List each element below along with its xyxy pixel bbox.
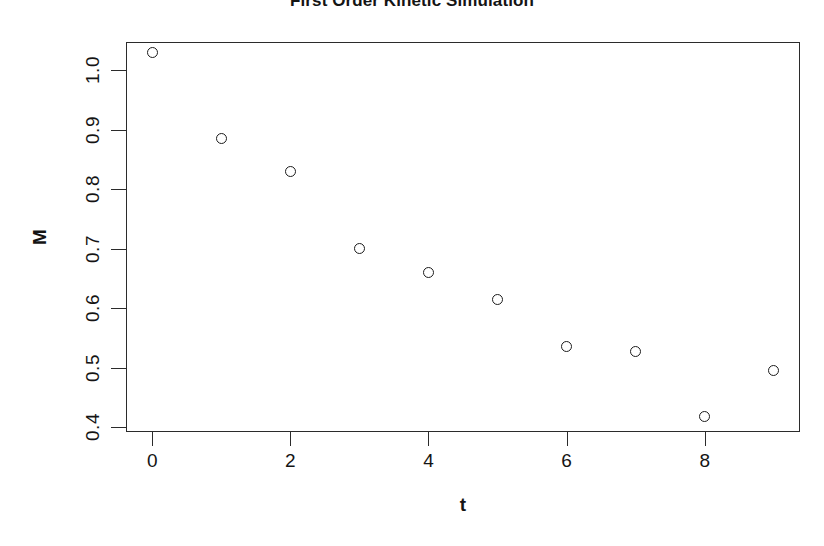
y-axis-tick-label: 0.5 [82, 354, 104, 382]
x-axis-tick [428, 432, 429, 446]
y-axis-tick [111, 368, 126, 369]
x-axis-tick-label: 2 [285, 450, 296, 472]
x-axis-tick-label: 0 [147, 450, 158, 472]
y-axis-tick [111, 427, 126, 428]
x-axis-tick-label: 4 [423, 450, 434, 472]
x-axis-tick-label: 8 [699, 450, 710, 472]
y-axis-label: M [29, 229, 51, 245]
y-axis-tick [111, 70, 126, 71]
plot-area [126, 42, 800, 432]
chart-title: First Order Kinetic Simulation [0, 0, 824, 11]
y-axis-tick [111, 189, 126, 190]
x-axis-tick [567, 432, 568, 446]
y-axis-tick-label: 0.7 [82, 235, 104, 263]
y-axis-tick-label: 0.6 [82, 294, 104, 322]
y-axis-tick [111, 130, 126, 131]
chart-figure: First Order Kinetic Simulation 0.40.50.6… [0, 0, 824, 546]
x-axis-label: t [460, 494, 466, 516]
x-axis-tick-label: 6 [561, 450, 572, 472]
y-axis-tick-label: 0.9 [82, 116, 104, 144]
y-axis-tick-label: 0.8 [82, 175, 104, 203]
x-axis-tick [152, 432, 153, 446]
x-axis-tick [290, 432, 291, 446]
y-axis-tick-label: 0.4 [82, 413, 104, 441]
y-axis-tick [111, 249, 126, 250]
y-axis-tick-label: 1.0 [82, 56, 104, 84]
y-axis-tick [111, 308, 126, 309]
x-axis-tick [705, 432, 706, 446]
